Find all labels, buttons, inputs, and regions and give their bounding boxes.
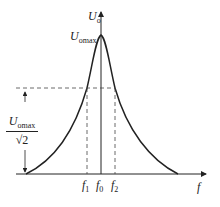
tick-f0: f0 (96, 179, 103, 194)
x-axis-label: f (197, 181, 200, 193)
resonance-diagram: Uo Uomax Uomax √2 f1 f0 f2 f (0, 0, 220, 207)
peak-label: Uomax (70, 30, 96, 45)
y-axis-label: Uo (88, 10, 101, 25)
curve-canvas (0, 0, 220, 207)
half-power-label: Uomax √2 (6, 114, 38, 148)
tick-f1: f1 (82, 179, 89, 194)
tick-f2: f2 (111, 179, 118, 194)
resonance-curve (26, 35, 178, 174)
